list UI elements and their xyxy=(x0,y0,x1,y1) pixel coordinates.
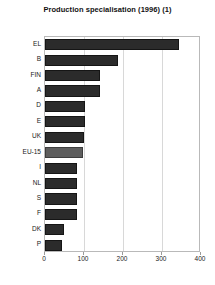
chart-container: Production specialisation (1996) (1) ELB… xyxy=(0,0,215,285)
y-axis-tick-label: F xyxy=(0,209,41,216)
bar-i xyxy=(45,163,77,174)
y-axis-tick-label: EU-15 xyxy=(0,148,41,155)
bar-b xyxy=(45,55,118,66)
y-axis-tick-label: A xyxy=(0,86,41,93)
y-axis-tick-label: D xyxy=(0,101,41,108)
y-axis-tick-label: B xyxy=(0,55,41,62)
bar-f xyxy=(45,209,77,220)
y-axis-tick-label: S xyxy=(0,194,41,201)
bar-p xyxy=(45,240,62,251)
y-axis-tick-label: UK xyxy=(0,132,41,139)
y-axis-tick-label: I xyxy=(0,163,41,170)
bar-eu-15 xyxy=(45,147,83,158)
y-axis-tick-label: EL xyxy=(0,40,41,47)
x-axis-tick-label: 100 xyxy=(78,255,89,262)
chart-title: Production specialisation (1996) (1) xyxy=(0,5,215,14)
bar-a xyxy=(45,85,100,96)
bar-fin xyxy=(45,70,100,81)
x-axis-tick-label: 200 xyxy=(117,255,128,262)
x-axis-tick-label: 0 xyxy=(42,255,46,262)
y-axis-tick-label: FIN xyxy=(0,71,41,78)
y-axis-tick-label: NL xyxy=(0,179,41,186)
y-axis-tick-label: DK xyxy=(0,225,41,232)
bar-nl xyxy=(45,178,77,189)
bar-el xyxy=(45,39,179,50)
y-axis-labels: ELBFINADEUKEU-15INLSFDKP xyxy=(0,36,41,252)
x-axis-labels: 0100200300400 xyxy=(44,255,200,269)
bars-layer xyxy=(45,37,199,251)
bar-d xyxy=(45,101,85,112)
bar-s xyxy=(45,193,77,204)
bar-e xyxy=(45,116,85,127)
x-axis-tick-label: 300 xyxy=(156,255,167,262)
x-axis-tick-label: 400 xyxy=(195,255,206,262)
bar-dk xyxy=(45,224,64,235)
bar-uk xyxy=(45,132,84,143)
y-axis-tick-label: P xyxy=(0,240,41,247)
y-axis-tick-label: E xyxy=(0,117,41,124)
plot-area xyxy=(44,36,200,252)
